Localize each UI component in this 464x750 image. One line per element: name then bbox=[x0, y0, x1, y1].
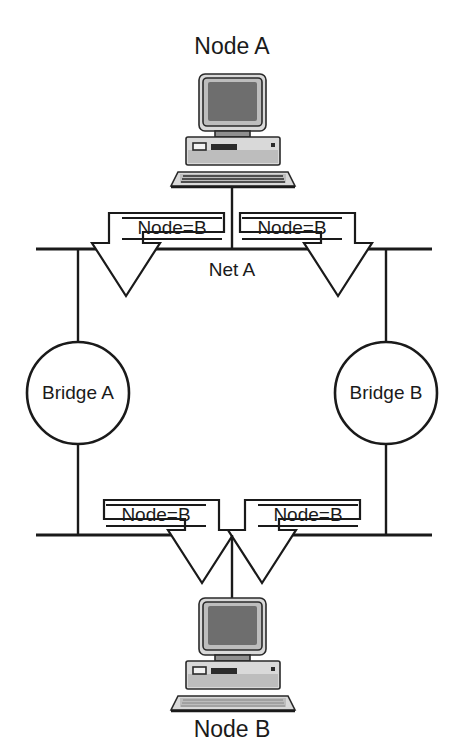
node-a-label: Node A bbox=[194, 33, 270, 59]
net-a-label: Net A bbox=[209, 259, 256, 280]
bridge-b: Bridge B bbox=[335, 342, 437, 444]
packet-top-right: Node=B bbox=[240, 213, 372, 296]
packet-bottom-left-label: Node=B bbox=[121, 504, 190, 525]
bridge-b-label: Bridge B bbox=[350, 382, 423, 403]
bridge-a-label: Bridge A bbox=[42, 382, 114, 403]
packet-bottom-left: Node=B bbox=[104, 500, 236, 583]
packet-top-left-label: Node=B bbox=[137, 217, 206, 238]
computer-icon-node-b bbox=[171, 598, 295, 711]
packet-top-left: Node=B bbox=[92, 213, 224, 296]
bridge-a: Bridge A bbox=[27, 342, 129, 444]
computer-icon-node-a bbox=[171, 74, 295, 187]
network-diagram: Node A bbox=[0, 0, 464, 750]
node-b-label: Node B bbox=[194, 716, 271, 742]
packet-bottom-right: Node=B bbox=[228, 500, 360, 583]
diagram-canvas: Node A bbox=[0, 0, 464, 750]
packet-bottom-right-label: Node=B bbox=[273, 504, 342, 525]
packet-top-right-label: Node=B bbox=[257, 217, 326, 238]
